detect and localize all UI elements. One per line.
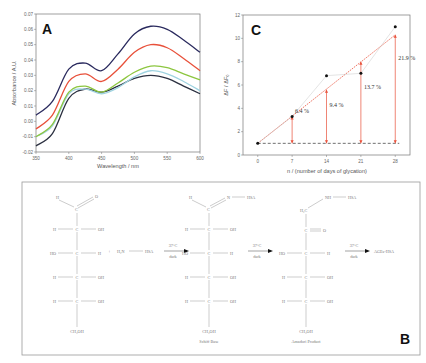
atom-h: H [56, 195, 59, 200]
svg-text:37°C: 37°C [253, 243, 262, 248]
svg-text:HO: HO [182, 251, 188, 256]
y-tick-label: -0.02 [23, 150, 34, 155]
svg-text:C: C [76, 227, 79, 232]
x-tick-label: 21 [358, 159, 364, 164]
schiff-base-structure: H C N HSA HCOHHOCHHCOHHCOH CH₂OH Schiff … [182, 195, 255, 344]
chart-c-y-ticks: 024681012 [235, 13, 243, 158]
chart-a-series [36, 26, 200, 146]
svg-text:OH: OH [98, 275, 104, 280]
svg-text:OH: OH [327, 275, 333, 280]
amadori-product-structure: H₂C NH HSA C O HOCHHCOHHCOH CH₂OH Amador… [279, 195, 356, 344]
h2n-hsa-reagent: H₂N HSA [117, 249, 153, 254]
svg-text:H: H [185, 299, 188, 304]
spectrum-line [36, 66, 200, 137]
x-tick-label: 350 [32, 156, 40, 161]
svg-text:OH: OH [230, 275, 236, 280]
svg-text:H₂N: H₂N [117, 249, 125, 254]
y-tick-label: 0.06 [24, 27, 33, 32]
svg-text:H: H [189, 195, 192, 200]
glucose-structure: H C O HCOHHOCHHCOHHCOH CH₂OH [50, 194, 104, 334]
svg-text:H: H [98, 251, 101, 256]
svg-text:37°C: 37°C [169, 243, 178, 248]
chart-c-x-ticks: 07142128 [256, 155, 398, 164]
y-tick-label: 8 [237, 59, 240, 64]
svg-text:OH: OH [98, 299, 104, 304]
data-point [394, 25, 397, 28]
svg-text:OH: OH [327, 299, 333, 304]
svg-text:OH: OH [230, 299, 236, 304]
svg-text:H: H [53, 275, 56, 280]
data-point [291, 115, 294, 118]
svg-text:H: H [185, 227, 188, 232]
svg-text:H: H [53, 227, 56, 232]
x-tick-label: 550 [163, 156, 171, 161]
svg-text:37°C: 37°C [350, 243, 359, 248]
x-tick-label: 0 [256, 159, 259, 164]
y-tick-label: 0.05 [24, 42, 33, 47]
svg-text:C: C [208, 275, 211, 280]
x-tick-label: 600 [196, 156, 204, 161]
percent-annotation: 13.7 % [364, 84, 381, 90]
chart-a-y-ticks: -0.02-0.010.000.010.020.030.040.050.060.… [23, 12, 36, 155]
svg-text:C: C [305, 251, 308, 256]
chart-c-y-axis-label: ΔF / ΔF₀ [223, 74, 229, 96]
chart-c-x-axis-label: n / (number of days of glycation) [287, 168, 367, 174]
y-tick-label: 0.00 [24, 119, 33, 124]
chart-c-series: 6.4 %9.4 %13.7 %21.9 % [256, 25, 415, 145]
svg-text:H: H [282, 275, 285, 280]
scheme-b: B H C O HCOHHOCHHCOHHCOH CH₂OH + H₂N HSA… [22, 182, 420, 355]
panel-label-b: B [400, 331, 410, 347]
svg-text:H: H [282, 299, 285, 304]
ch2oh-group: CH₂OH [70, 329, 83, 334]
y-tick-label: 12 [235, 13, 241, 18]
y-tick-label: 0.07 [24, 12, 33, 17]
svg-text:HO: HO [279, 251, 285, 256]
svg-text:HSA: HSA [145, 249, 153, 254]
data-point [325, 74, 328, 77]
svg-text:H: H [185, 275, 188, 280]
svg-text:HO: HO [50, 251, 56, 256]
atom-c: C [75, 207, 78, 212]
y-tick-label: 4 [237, 106, 240, 111]
svg-text:H: H [53, 299, 56, 304]
y-tick-label: 2 [237, 129, 240, 134]
svg-text:CH₂OH: CH₂OH [202, 329, 215, 334]
x-tick-label: 400 [65, 156, 73, 161]
y-tick-label: 0.01 [24, 104, 33, 109]
spectrum-line [36, 71, 200, 137]
svg-text:C: C [207, 207, 210, 212]
atom-o: O [95, 194, 98, 199]
percent-annotation: 9.4 % [330, 102, 344, 108]
figure-canvas: -0.02-0.010.000.010.020.030.040.050.060.… [0, 0, 426, 363]
percent-annotation: 21.9 % [398, 55, 415, 61]
amadori-product-caption: Amadori Product [292, 339, 322, 344]
svg-text:OH: OH [230, 227, 236, 232]
y-tick-label: 10 [235, 36, 241, 41]
svg-text:H₂C: H₂C [300, 208, 307, 213]
y-tick-label: 6 [237, 83, 240, 88]
svg-text:C: C [305, 299, 308, 304]
svg-text:dark: dark [253, 254, 261, 259]
data-point [359, 72, 362, 75]
svg-text:C: C [305, 228, 308, 233]
svg-text:NH: NH [325, 195, 331, 200]
schiff-base-caption: Schiff Base [199, 339, 218, 344]
y-tick-label: -0.01 [23, 134, 34, 139]
svg-text:C: C [305, 275, 308, 280]
x-tick-label: 450 [98, 156, 106, 161]
svg-text:HSA: HSA [348, 195, 356, 200]
svg-text:H: H [327, 251, 330, 256]
svg-text:OH: OH [98, 227, 104, 232]
svg-text:C: C [208, 251, 211, 256]
svg-text:N: N [227, 195, 230, 200]
svg-text:C: C [76, 299, 79, 304]
svg-text:C: C [208, 227, 211, 232]
plus-sign: + [108, 249, 111, 254]
chart-a: -0.02-0.010.000.010.020.030.040.050.060.… [11, 12, 204, 169]
svg-text:H: H [230, 251, 233, 256]
svg-text:C: C [76, 275, 79, 280]
y-tick-label: 0.04 [24, 58, 33, 63]
y-tick-label: 0.02 [24, 88, 33, 93]
x-tick-label: 14 [324, 159, 330, 164]
chart-a-x-axis-label: Wavelength / nm [97, 163, 139, 169]
